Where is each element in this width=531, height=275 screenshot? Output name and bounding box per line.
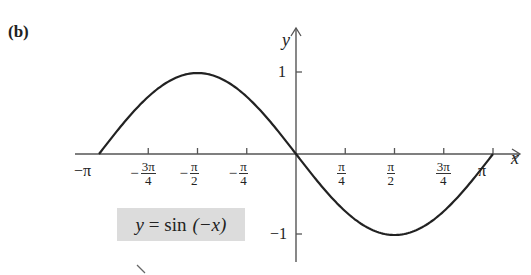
equation-lhs: y [136,214,144,236]
x-tick-label: π4 [337,160,346,187]
x-tick-label: −π2 [179,160,198,187]
equation-eq: = [144,214,164,236]
y-axis-label: y [282,30,290,51]
equation-label: y = sin (−x) [117,208,245,241]
x-ticks [148,148,493,154]
plot-area [0,0,531,275]
equation-arg: (−x) [192,214,226,236]
y-tick-label-neg1: −1 [270,226,287,242]
x-tick-label: −π4 [229,160,248,187]
pointer-mark [137,265,145,273]
x-tick-label: 3π4 [436,160,451,187]
x-tick-label: π2 [387,160,396,187]
equation-fn: sin [164,214,186,236]
x-axis-label: x [511,148,519,169]
x-tick-label: −π [74,163,91,179]
x-tick-label: π [478,163,486,179]
y-tick-label-1: 1 [278,64,286,80]
x-tick-label: −3π4 [130,160,156,187]
